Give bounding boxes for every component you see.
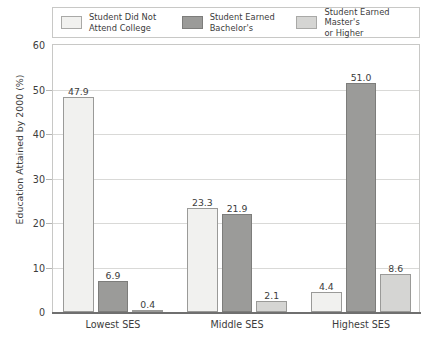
bar-lowest-bachelors[interactable]: 6.9 — [98, 281, 129, 312]
bar-value-middle-bachelors: 21.9 — [227, 203, 248, 214]
y-axis: Education Attained by 2000 (%) 60 50 40 … — [0, 0, 52, 346]
y-tick-20: 20 — [33, 218, 45, 229]
bar-value-highest-masters: 8.6 — [388, 263, 403, 274]
bar-middle-masters[interactable]: 2.1 — [256, 301, 287, 313]
y-tick-50: 50 — [33, 84, 45, 95]
bar-group-lowest-ses: 47.9 6.9 0.4 Lowest SES — [63, 45, 163, 312]
y-tick-30: 30 — [33, 173, 45, 184]
bar-slot-lowest-masters: 0.4 — [132, 45, 163, 312]
bar-value-middle-masters: 2.1 — [264, 290, 279, 301]
x-tick-label-highest-ses: Highest SES — [311, 319, 411, 330]
y-tick-40: 40 — [33, 129, 45, 140]
bar-group-middle-ses: 23.3 21.9 2.1 Middle SES — [187, 45, 287, 312]
x-axis-baseline — [52, 312, 421, 314]
bar-highest-bachelors[interactable]: 51.0 — [346, 83, 377, 312]
bar-value-lowest-masters: 0.4 — [140, 299, 155, 310]
legend-item-masters: Student Earned Master's or Higher — [296, 8, 419, 37]
legend-item-bachelors: Student Earned Bachelor's — [182, 8, 297, 37]
bar-chart-figure: Student Did Not Attend College Student E… — [0, 0, 429, 346]
bar-lowest-no-college[interactable]: 47.9 — [63, 97, 94, 312]
y-tick-60: 60 — [33, 40, 45, 51]
bar-slot-middle-no-college: 23.3 — [187, 45, 218, 312]
plot-area: 47.9 6.9 0.4 Lowest SES 23.3 — [52, 44, 420, 313]
legend-swatch-bachelors — [182, 16, 203, 29]
legend-swatch-no-college — [61, 16, 82, 29]
x-tick-label-lowest-ses: Lowest SES — [63, 319, 163, 330]
bar-highest-masters[interactable]: 8.6 — [380, 274, 411, 313]
y-tick-0: 0 — [39, 307, 45, 318]
bar-highest-no-college[interactable]: 4.4 — [311, 292, 342, 312]
bar-middle-bachelors[interactable]: 21.9 — [222, 214, 253, 312]
bar-value-lowest-bachelors: 6.9 — [106, 270, 121, 281]
bar-slot-highest-masters: 8.6 — [380, 45, 411, 312]
legend-label-no-college: Student Did Not Attend College — [89, 12, 156, 32]
figure-caption — [60, 340, 400, 346]
bar-slot-middle-masters: 2.1 — [256, 45, 287, 312]
bar-value-highest-bachelors: 51.0 — [351, 72, 372, 83]
bar-slot-middle-bachelors: 21.9 — [222, 45, 253, 312]
x-tick-label-middle-ses: Middle SES — [187, 319, 287, 330]
y-axis-title: Education Attained by 2000 (%) — [14, 35, 25, 265]
chart-legend: Student Did Not Attend College Student E… — [52, 7, 420, 38]
legend-swatch-masters — [296, 16, 317, 29]
bar-middle-no-college[interactable]: 23.3 — [187, 208, 218, 313]
y-tick-10: 10 — [33, 262, 45, 273]
bar-slot-lowest-no-college: 47.9 — [63, 45, 94, 312]
bar-value-middle-no-college: 23.3 — [192, 197, 213, 208]
legend-item-no-college: Student Did Not Attend College — [53, 8, 182, 37]
legend-label-bachelors: Student Earned Bachelor's — [210, 12, 275, 32]
bar-slot-highest-bachelors: 51.0 — [346, 45, 377, 312]
legend-label-masters: Student Earned Master's or Higher — [324, 7, 419, 38]
bar-value-lowest-no-college: 47.9 — [68, 86, 89, 97]
bar-group-highest-ses: 4.4 51.0 8.6 Highest SES — [311, 45, 411, 312]
bar-slot-lowest-bachelors: 6.9 — [98, 45, 129, 312]
bar-value-highest-no-college: 4.4 — [319, 281, 334, 292]
bar-slot-highest-no-college: 4.4 — [311, 45, 342, 312]
